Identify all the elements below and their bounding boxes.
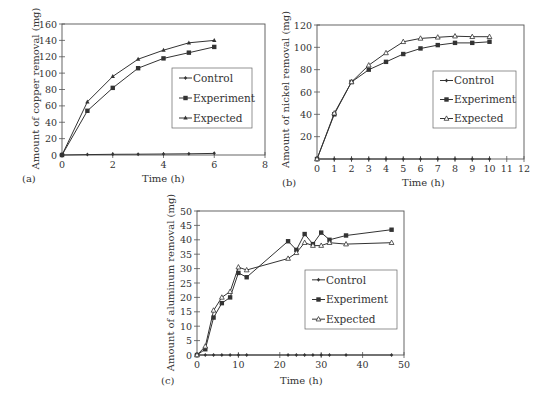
y-tick-label: 10 bbox=[180, 321, 192, 332]
series-control bbox=[195, 353, 393, 357]
series-control-marker bbox=[402, 157, 405, 161]
series-expected-marker bbox=[286, 256, 291, 260]
series-control-marker bbox=[303, 353, 306, 357]
series-expected-marker bbox=[302, 240, 307, 244]
y-tick-label: 50 bbox=[180, 206, 192, 217]
series-experiment-marker bbox=[111, 86, 115, 90]
series-expected-marker bbox=[212, 38, 216, 42]
x-tick-label: 1 bbox=[331, 163, 337, 174]
series-experiment-marker bbox=[286, 239, 290, 243]
series-control-marker bbox=[390, 353, 393, 357]
x-tick-label: 0 bbox=[194, 359, 200, 370]
series-control-marker bbox=[245, 353, 248, 357]
series-experiment-marker bbox=[212, 45, 216, 49]
series-control-marker bbox=[367, 157, 370, 161]
series-expected-marker bbox=[111, 74, 115, 78]
legend-label-experiment: Experiment bbox=[193, 92, 256, 104]
legend-experiment-marker bbox=[183, 96, 187, 100]
x-tick-label: 7 bbox=[435, 163, 441, 174]
y-tick-label: 140 bbox=[39, 35, 57, 46]
legend-experiment-marker bbox=[316, 297, 320, 301]
legend: ControlExperimentExpected bbox=[172, 68, 256, 128]
series-control-marker bbox=[229, 353, 232, 357]
x-tick-label: 8 bbox=[452, 163, 458, 174]
y-tick-label: 35 bbox=[180, 249, 192, 260]
x-tick-label: 50 bbox=[398, 359, 410, 370]
legend-label-experiment: Experiment bbox=[326, 293, 389, 305]
chart-aluminum-removal: 0510152025303540455001020304050ControlEx… bbox=[180, 206, 410, 371]
series-control-marker bbox=[333, 157, 336, 161]
y-axis-title-c: Amount of aluminum removal (mg) bbox=[165, 183, 176, 383]
series-experiment-marker bbox=[344, 233, 348, 237]
series-experiment-marker bbox=[319, 230, 323, 234]
series-experiment-marker bbox=[220, 301, 224, 305]
y-tick-label: 160 bbox=[39, 19, 57, 30]
x-tick-label: 12 bbox=[518, 163, 530, 174]
series-experiment-marker bbox=[389, 228, 393, 232]
y-tick-label: 120 bbox=[39, 51, 57, 62]
legend-label-experiment: Experiment bbox=[454, 93, 517, 105]
x-tick-label: 3 bbox=[366, 163, 372, 174]
series-experiment-marker bbox=[418, 46, 422, 50]
x-tick-label: 4 bbox=[160, 159, 166, 170]
series-control-marker bbox=[328, 353, 331, 357]
series-control-marker bbox=[237, 353, 240, 357]
series-control-marker bbox=[311, 353, 314, 357]
series-control-marker bbox=[86, 153, 89, 157]
series-control-marker bbox=[220, 353, 223, 357]
legend: ControlExperimentExpected bbox=[305, 270, 397, 329]
y-tick-label: 40 bbox=[300, 109, 312, 120]
y-tick-label: 20 bbox=[300, 131, 312, 142]
x-axis-title-b: Time (h) bbox=[402, 177, 445, 188]
x-tick-label: 6 bbox=[211, 159, 217, 170]
y-tick-label: 25 bbox=[180, 278, 192, 289]
x-tick-label: 10 bbox=[232, 359, 244, 370]
series-control-marker bbox=[320, 353, 323, 357]
y-tick-label: 5 bbox=[186, 335, 192, 346]
x-tick-label: 2 bbox=[110, 159, 116, 170]
series-control-marker bbox=[350, 157, 353, 161]
legend-experiment-marker bbox=[444, 97, 448, 101]
x-tick-label: 0 bbox=[314, 163, 320, 174]
y-tick-label: 120 bbox=[294, 20, 312, 31]
y-axis-title-b: Amount of nickel removal (mg) bbox=[280, 0, 291, 185]
series-experiment-marker bbox=[244, 275, 248, 279]
series-control-marker bbox=[488, 157, 491, 161]
y-tick-label: 60 bbox=[45, 100, 57, 111]
x-tick-label: 10 bbox=[483, 163, 495, 174]
x-axis-title-c: Time (h) bbox=[280, 375, 323, 386]
series-control-marker bbox=[471, 157, 474, 161]
series-expected-marker bbox=[236, 265, 241, 269]
x-axis-title-a: Time (h) bbox=[142, 173, 185, 184]
series-experiment-marker bbox=[470, 41, 474, 45]
series-control-marker bbox=[295, 353, 298, 357]
x-tick-label: 8 bbox=[262, 159, 268, 170]
y-tick-label: 45 bbox=[180, 220, 192, 231]
chart-nickel-removal: 204060801001200123456789101112ControlExp… bbox=[294, 20, 530, 175]
x-tick-label: 5 bbox=[400, 163, 406, 174]
y-tick-label: 60 bbox=[300, 87, 312, 98]
legend: ControlExperimentExpected bbox=[433, 71, 517, 128]
series-control-marker bbox=[384, 157, 387, 161]
series-experiment-marker bbox=[436, 43, 440, 47]
series-experiment-marker bbox=[136, 66, 140, 70]
y-tick-label: 20 bbox=[45, 133, 57, 144]
y-tick-label: 40 bbox=[180, 234, 192, 245]
x-tick-label: 4 bbox=[383, 163, 389, 174]
x-tick-label: 0 bbox=[59, 159, 65, 170]
series-experiment-marker bbox=[453, 41, 457, 45]
series-experiment-marker bbox=[367, 67, 371, 71]
series-control-marker bbox=[204, 353, 207, 357]
series-control-marker bbox=[286, 353, 289, 357]
series-control-marker bbox=[137, 152, 140, 156]
y-tick-label: 30 bbox=[180, 263, 192, 274]
series-experiment-marker bbox=[487, 40, 491, 44]
legend-label-expected: Expected bbox=[326, 313, 376, 325]
series-control bbox=[315, 157, 491, 161]
x-tick-label: 9 bbox=[469, 163, 475, 174]
legend-label-control: Control bbox=[193, 72, 234, 84]
y-tick-label: 40 bbox=[45, 117, 57, 128]
figure-canvas: 02040608010012014016002468ControlExperim… bbox=[0, 0, 553, 403]
series-experiment-marker bbox=[384, 60, 388, 64]
y-tick-label: 0 bbox=[51, 150, 57, 161]
